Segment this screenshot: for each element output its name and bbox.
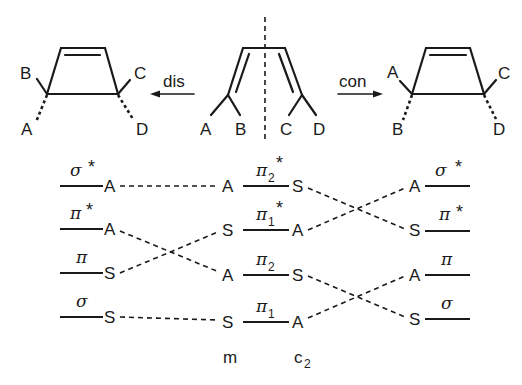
butadiene: A B C D [200, 17, 325, 140]
center-c2-sym: S [292, 177, 303, 196]
center-level-pi2-star-label: π [255, 160, 268, 180]
corr-pi1-star-to-sigma-star [308, 188, 405, 230]
left-level-pi-label: π [75, 247, 88, 267]
left-level-pi-star-label: π [69, 203, 82, 223]
right-level-sigma-label: σ [441, 293, 453, 313]
center-level-pi2-label: π [255, 249, 268, 269]
left-level-sigma-star-label: σ [70, 160, 82, 180]
right-sub-lower-left: B [392, 120, 403, 139]
subscript: 2 [268, 171, 275, 185]
right-level-sigma-sym: S [409, 310, 420, 329]
corr-pi-to-pi1-star [120, 232, 218, 273]
star-mark: * [455, 157, 462, 177]
star-mark: * [276, 153, 283, 173]
right-cyclobutene: A B C D [387, 48, 510, 139]
center-c2-sym: A [292, 221, 304, 240]
electrocyclic-correlation-diagram: B A C D dis A B C D con A [0, 0, 522, 385]
left-sub-upper-left: B [20, 64, 31, 83]
butadiene-sub-d: D [313, 120, 325, 139]
center-m-sym: S [222, 313, 233, 332]
c2-column-subscript: 2 [304, 357, 311, 371]
left-level-sigma-label: σ [76, 291, 88, 311]
left-level-pi-sym: S [104, 264, 115, 283]
arrowhead-right-icon [373, 91, 383, 98]
butadiene-sub-c: C [280, 120, 292, 139]
left-sub-upper-right: C [134, 64, 146, 83]
center-levels: A π 2 * S S π 1 * A A π 2 S S π 1 A m c … [222, 153, 311, 371]
corr-pi2-star-to-pi-star [308, 188, 405, 229]
left-cyclobutene: B A C D [20, 48, 148, 139]
right-sub-upper-left: A [387, 63, 399, 82]
star-mark: * [86, 200, 93, 220]
left-sub-lower-left: A [21, 120, 33, 139]
subscript: 1 [268, 215, 275, 229]
con-label: con [339, 72, 366, 91]
con-arrow: con [338, 72, 383, 98]
subscript: 1 [268, 307, 275, 321]
butadiene-sub-a: A [200, 120, 212, 139]
left-sub-lower-right: D [136, 120, 148, 139]
corr-pi1-to-pi [308, 276, 405, 318]
subscript: 2 [268, 260, 275, 274]
right-level-pi-sym: A [409, 266, 421, 285]
right-sub-upper-right: C [498, 64, 510, 83]
left-level-sigma-sym: S [104, 308, 115, 327]
m-column-label: m [223, 348, 237, 367]
butadiene-sub-b: B [235, 120, 246, 139]
corr-sigma-to-pi1 [120, 317, 218, 320]
center-c2-sym: S [292, 266, 303, 285]
right-sub-lower-right: D [493, 120, 505, 139]
right-levels: A σ * S π * A π S σ [409, 157, 470, 329]
corr-pi2-to-sigma [308, 276, 405, 317]
right-level-pi-label: π [440, 249, 453, 269]
star-mark: * [456, 202, 463, 222]
left-level-pi-star-sym: A [104, 220, 116, 239]
left-levels: σ * A π * A π S σ S [60, 157, 116, 327]
center-c2-sym: A [292, 313, 304, 332]
center-m-sym: A [222, 266, 234, 285]
right-level-sigma-star-sym: A [409, 177, 421, 196]
star-mark: * [88, 157, 95, 177]
dis-arrow: dis [150, 72, 194, 98]
center-level-pi1-label: π [255, 296, 268, 316]
c2-column-label: c [294, 348, 303, 367]
dis-label: dis [163, 72, 185, 91]
right-level-pi-star-sym: S [409, 221, 420, 240]
center-m-sym: A [222, 177, 234, 196]
arrowhead-left-icon [150, 91, 160, 98]
center-level-pi1-star-label: π [255, 204, 268, 224]
left-level-sigma-star-sym: A [104, 177, 116, 196]
right-level-pi-star-label: π [438, 204, 451, 224]
right-level-sigma-star-label: σ [435, 160, 447, 180]
center-m-sym: S [222, 221, 233, 240]
star-mark: * [276, 198, 283, 218]
